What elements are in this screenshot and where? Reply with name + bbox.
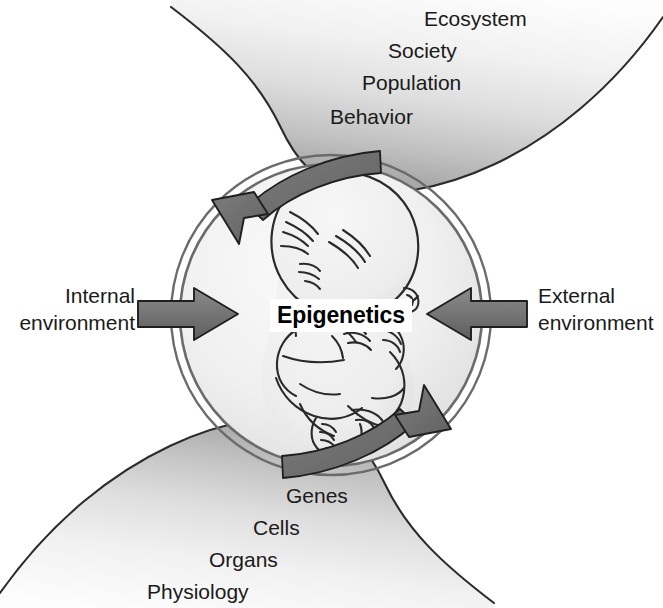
ribbon-label-genes: Genes [286, 483, 348, 508]
ribbon-label-organs: Organs [209, 547, 278, 572]
ribbon-label-ecosystem: Ecosystem [424, 6, 527, 31]
label-internal-environment-line1: Internal [57, 283, 135, 308]
label-external-environment-line1: External [538, 283, 615, 308]
figure-canvas: Ecosystem Society Population Behavior Ge… [0, 0, 663, 608]
ribbon-label-cells: Cells [253, 515, 300, 540]
label-external-environment-line2: environment [538, 310, 654, 335]
ribbon-label-population: Population [362, 70, 461, 95]
label-internal-environment-line2: environment [19, 310, 135, 335]
ribbon-label-behavior: Behavior [330, 104, 413, 129]
ribbon-label-physiology: Physiology [147, 579, 249, 604]
upper-ribbon [171, 0, 663, 193]
center-label-epigenetics: Epigenetics [270, 299, 412, 332]
ribbon-label-society: Society [388, 38, 457, 63]
